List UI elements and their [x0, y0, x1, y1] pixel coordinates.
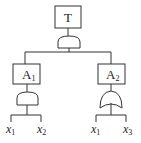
event-a1-subscript: 1 — [31, 74, 35, 83]
basic-event-x1-b: x1 — [90, 122, 100, 137]
and-gate-icon — [17, 92, 38, 105]
top-event-node: T — [55, 6, 81, 28]
basic-event-x3: x3 — [122, 122, 132, 137]
event-node-a1: A1 — [13, 64, 40, 84]
basic-event-x2: x2 — [36, 122, 46, 137]
basic-event-x1-a: x1 — [5, 122, 15, 137]
event-a2-subscript: 2 — [115, 74, 119, 83]
top-event-label: T — [64, 10, 72, 25]
and-gate-icon — [58, 36, 80, 48]
event-node-a2: A2 — [98, 64, 125, 84]
fault-tree-diagram: T A1 x1 x2 A2 x1 x3 — [0, 0, 141, 143]
